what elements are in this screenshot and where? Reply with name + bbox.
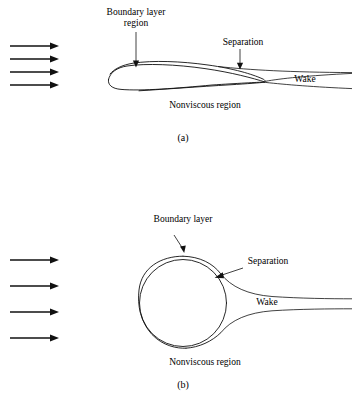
panel-b: Boundary layer Separation Wake Nonviscou…: [10, 214, 352, 391]
leader-arrowhead-boundary-layer-b: [180, 245, 186, 253]
cylinder-boundary-layer-upper: [139, 256, 186, 348]
flow-separation-figure: Boundary layer region Separation Wake No…: [0, 0, 352, 399]
airfoil-lower-boundary-edge: [139, 82, 265, 91]
label-boundary-layer-region-line1: Boundary layer: [107, 7, 167, 17]
wake-upper-streamline-b: [221, 274, 352, 299]
flow-arrows-panel-a: [10, 43, 59, 89]
flow-arrow: [10, 69, 59, 76]
label-nonviscous-region-b: Nonviscous region: [169, 357, 241, 367]
nonviscous-upper-streamline-a: [218, 67, 352, 73]
leader-arrowhead-boundary-layer-a: [133, 61, 139, 68]
flow-arrow: [10, 283, 59, 290]
flow-arrow: [10, 43, 59, 50]
label-wake-b: Wake: [256, 297, 277, 307]
label-nonviscous-region-a: Nonviscous region: [169, 100, 241, 110]
airfoil-upper-surface: [109, 64, 266, 82]
flow-arrow: [10, 309, 59, 316]
label-separation-a: Separation: [223, 37, 264, 47]
flow-arrow: [10, 82, 59, 89]
label-boundary-layer-region-line2: region: [124, 18, 149, 28]
caption-panel-a: (a): [177, 132, 188, 144]
flow-arrow: [10, 56, 59, 63]
label-wake-a: Wake: [294, 74, 315, 84]
cylinder-body: [140, 260, 227, 347]
flow-arrows-panel-b: [10, 257, 59, 342]
separation-shear-layer-upper: [183, 256, 221, 273]
panel-a: Boundary layer region Separation Wake No…: [10, 7, 352, 144]
label-separation-b: Separation: [248, 256, 289, 266]
wake-lower-streamline-b: [221, 309, 352, 333]
flow-arrow: [10, 335, 59, 342]
airfoil-lower-surface: [108, 80, 265, 90]
flow-arrow: [10, 257, 59, 264]
caption-panel-b: (b): [177, 379, 189, 391]
label-boundary-layer-b: Boundary layer: [154, 214, 214, 224]
